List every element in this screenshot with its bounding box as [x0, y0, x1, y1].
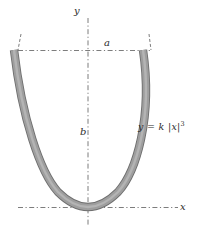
curve-equation-label: y = k |x|3: [138, 122, 185, 132]
axis-label-y: y: [74, 6, 80, 16]
curve-equation-exponent: 3: [181, 120, 185, 128]
tick-mark-right: [149, 34, 151, 50]
tick-mark-left: [18, 34, 21, 50]
axis-label-x: x: [180, 202, 186, 212]
curve-equation-base: y = k |x|: [138, 121, 181, 132]
dimension-label-a: a: [104, 38, 110, 48]
dimension-label-b: b: [80, 127, 86, 137]
figure-canvas: [0, 0, 199, 231]
math-figure: y x a b y = k |x|3: [0, 0, 199, 231]
